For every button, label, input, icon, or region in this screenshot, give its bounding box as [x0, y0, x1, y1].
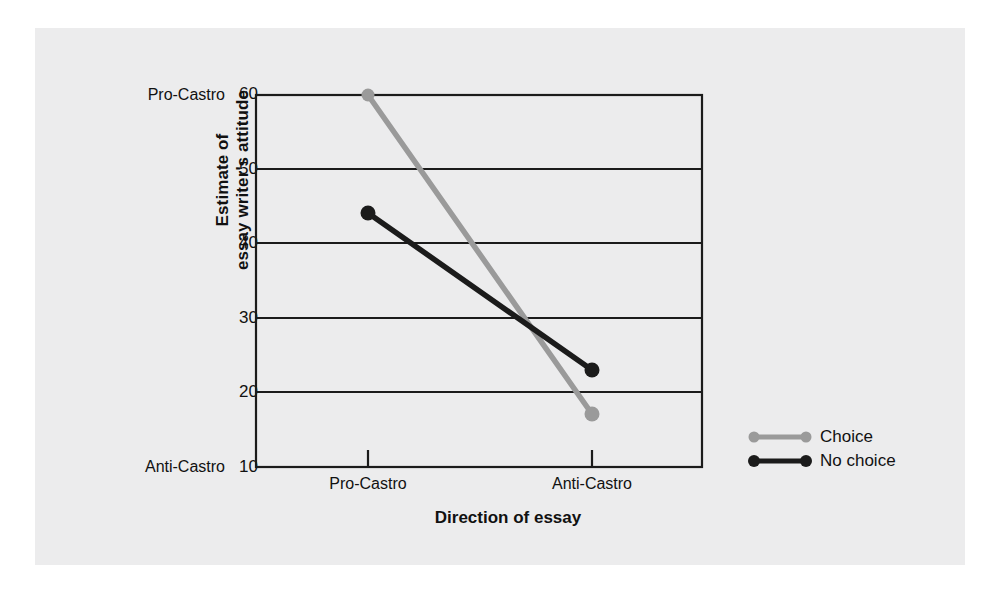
legend-marker-no-choice-left	[748, 455, 760, 467]
plot-frame	[256, 95, 702, 467]
legend-marker-choice-left	[749, 432, 760, 443]
series-line-no-choice	[368, 213, 592, 370]
data-point-no-choice-anti-castro	[585, 363, 600, 378]
legend-label-choice: Choice	[820, 427, 873, 447]
chart-area: Estimate of essay writer's attitude Pro-…	[0, 0, 999, 592]
data-point-choice-anti-castro	[585, 407, 600, 422]
data-point-no-choice-pro-castro	[361, 206, 376, 221]
data-point-choice-pro-castro	[362, 89, 375, 102]
plot-svg	[0, 0, 999, 592]
legend-label-no-choice: No choice	[820, 451, 896, 471]
series-line-choice	[368, 95, 592, 414]
legend-marker-choice-right	[801, 432, 812, 443]
legend-marker-no-choice-right	[800, 455, 812, 467]
